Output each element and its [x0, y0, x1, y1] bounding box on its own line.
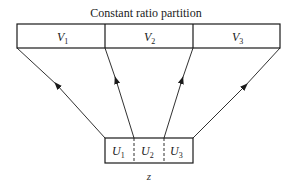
diagram-title: Constant ratio partition — [90, 6, 201, 20]
partition-u1-label: U1 — [112, 144, 125, 160]
z-label: z — [146, 170, 152, 182]
constant-ratio-partition-diagram: Constant ratio partition V1 V2 V3 U1 U2 … — [0, 0, 292, 188]
arrow-u-to-v3-right — [193, 86, 245, 138]
top-partition-box: V1 V2 V3 — [17, 24, 280, 48]
partition-v1-label: V1 — [57, 30, 68, 46]
arrow-line-mid-right-upper — [182, 48, 193, 80]
arrow-line-right-upper — [245, 48, 280, 86]
arrow-u2-to-v2-v3 — [164, 80, 182, 138]
arrow-u-to-v1-left — [57, 85, 105, 138]
partition-u2-label: U2 — [141, 144, 154, 160]
bottom-partition-box: U1 U2 U3 — [105, 138, 193, 163]
arrow-line-left-upper — [17, 48, 57, 85]
arrow-u1-to-v1-v2 — [116, 80, 134, 138]
arrow-line-mid-left-upper — [105, 48, 116, 80]
partition-v3-label: V3 — [232, 30, 243, 46]
partition-v2-label: V2 — [144, 30, 155, 46]
partition-u3-label: U3 — [170, 144, 183, 160]
mapping-arrows — [17, 48, 280, 138]
